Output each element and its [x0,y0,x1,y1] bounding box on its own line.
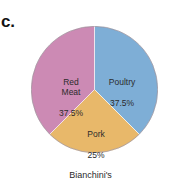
chart-caption: Bianchini's [0,170,181,180]
part-label: c. [1,13,15,30]
pie-chart-svg [31,26,158,153]
pie-chart: Red Meat 37.5% Poultry 37.5% Pork 25% [31,26,158,153]
pie-chart-figure: c. Red Meat 37.5% Poultry 37.5% Pork 25%… [0,0,181,194]
